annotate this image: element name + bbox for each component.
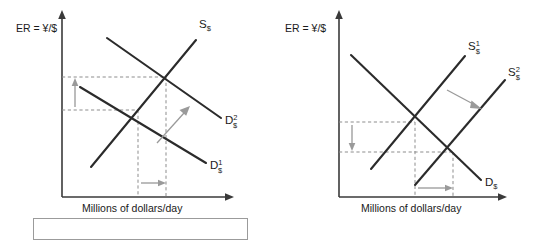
demand-curve: D$ [351,55,498,191]
y-axis-label: ER = ¥/$ [16,22,57,34]
x-axis-label: Millions of dollars/day [82,202,183,214]
demand-curve-1: D1$ [80,87,223,175]
demand-curve-1-line [80,87,206,163]
demand-shift-arrow-head [180,106,191,116]
supply-shift-arrow-shaft [447,90,475,105]
caption-text-left [34,219,247,227]
demand-curve-subscript: $ [493,182,498,191]
quantity-right-arrow-head [445,185,453,192]
supply-shift-arrow [447,90,482,109]
caption-box-left [33,218,248,240]
exchange-rate-figure: ER = ¥/$ S$ D [0,0,533,240]
demand-curve-1-subscript: $ [218,166,223,175]
supply-curve-1-subscript: $ [476,47,481,56]
supply-curve-label: S$ [199,18,212,33]
demand-shift-arrow [157,106,190,143]
y-axis-arrowhead [58,10,66,19]
supply-curve-2-line [415,80,505,185]
demand-curve-label: D$ [485,176,498,191]
demand-shift-chart: ER = ¥/$ S$ D [0,0,266,215]
demand-shift-panel: ER = ¥/$ S$ D [0,0,266,240]
quantity-right-arrow [418,185,453,192]
supply-shift-arrow-head [470,101,482,110]
exchange-rate-up-arrow [72,78,79,107]
exchange-rate-down-arrow [349,125,356,151]
x-axis-label: Millions of dollars/day [361,202,462,214]
supply-curve-2-label: S2$ [508,65,521,82]
demand-curve-2-subscript: $ [233,121,238,130]
quantity-right-arrow-head [158,180,166,187]
supply-curve-1-label: S1$ [468,39,481,56]
demand-curve-line [351,55,481,180]
axes [335,10,507,201]
y-axis-arrowhead [335,10,343,19]
x-axis-arrowhead [498,193,507,201]
exchange-rate-down-arrow-head [349,143,356,151]
supply-shift-chart: ER = ¥/$ S1$ [267,0,533,215]
demand-curve-2-label: D2$ [225,113,238,130]
demand-curve-2-line [107,38,221,118]
axes [58,10,234,201]
exchange-rate-up-arrow-head [72,78,79,86]
supply-curve-subscript: $ [207,24,212,33]
supply-curve-1: S1$ [371,39,481,169]
demand-curve-1-label: D1$ [210,158,223,175]
x-axis-arrowhead [225,193,234,201]
quantity-right-arrow [141,180,166,187]
demand-curve-base: D [485,176,493,188]
supply-curve-2-subscript: $ [516,73,521,82]
supply-shift-panel: ER = ¥/$ S1$ [267,0,533,240]
y-axis-label: ER = ¥/$ [285,22,326,34]
demand-shift-arrow-shaft [157,113,184,143]
